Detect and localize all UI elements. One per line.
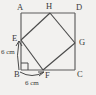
vertex-label-b: B	[14, 70, 20, 79]
geometry-figure: A D C B E F G H 6 cm 6 cm	[0, 0, 96, 95]
edge-gf	[43, 43, 75, 70]
dimension-label-bf: 6 cm	[25, 80, 39, 87]
right-angle-mark-at-b	[21, 63, 28, 70]
vertex-label-e: E	[12, 34, 17, 43]
vertex-label-h: H	[46, 2, 52, 11]
edge-hg	[50, 13, 75, 43]
vertex-label-a: A	[17, 3, 23, 12]
edge-fe	[21, 40, 43, 70]
dimension-arrow-bf	[20, 72, 44, 76]
vertex-label-g: G	[79, 38, 85, 47]
outer-square-abcd	[21, 13, 75, 70]
dimension-label-be: 6 cm	[1, 49, 15, 56]
edge-eh	[21, 13, 50, 40]
vertex-label-f: F	[45, 71, 50, 80]
vertex-label-d: D	[76, 3, 82, 12]
dimension-line-be	[18, 41, 20, 70]
vertex-label-c: C	[77, 70, 83, 79]
inner-square-efgh	[21, 13, 75, 70]
